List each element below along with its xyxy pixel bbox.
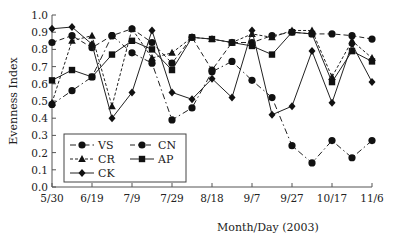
circle-marker-icon (228, 58, 235, 65)
x-tick-label: 6/19 (80, 192, 104, 204)
circle-marker-icon (308, 159, 315, 166)
circle-marker-icon (168, 116, 175, 123)
x-tick-label: 5/30 (40, 192, 64, 204)
x-tick-label: 9/7 (244, 192, 261, 204)
triangle-marker-icon (88, 32, 96, 39)
square-marker-icon (149, 46, 155, 52)
circle-marker-icon (148, 39, 155, 46)
diamond-marker-icon (269, 111, 276, 119)
legend-label: AP (157, 153, 174, 166)
square-marker-icon (249, 43, 255, 49)
x-axis-label: Month/Day (2003) (217, 221, 319, 234)
diamond-marker-icon (289, 102, 296, 110)
legend-label: VS (97, 139, 113, 152)
legend-label: CK (98, 167, 115, 180)
square-marker-icon (129, 38, 135, 44)
circle-marker-icon (128, 49, 135, 56)
x-tick-label: 10/17 (317, 192, 347, 204)
circle-marker-icon (208, 66, 215, 73)
circle-marker-icon (78, 141, 85, 148)
y-tick-label: 1.0 (31, 9, 48, 21)
legend: VSCNCRAPCK (64, 134, 186, 182)
square-marker-icon (269, 51, 275, 57)
circle-marker-icon (248, 77, 255, 84)
circle-marker-icon (328, 137, 335, 144)
diamond-marker-icon (49, 25, 56, 33)
square-marker-icon (189, 34, 195, 40)
circle-marker-icon (188, 104, 195, 111)
line-chart: 0.00.10.20.30.40.50.60.70.80.91.05/306/1… (0, 0, 395, 234)
y-tick-label: 0.5 (31, 95, 48, 107)
legend-label: CR (98, 153, 115, 166)
y-tick-label: 0.1 (31, 164, 48, 176)
x-tick-label: 7/29 (160, 192, 184, 204)
square-marker-icon (209, 36, 215, 42)
square-marker-icon (369, 58, 375, 64)
square-marker-icon (309, 31, 315, 37)
circle-marker-icon (268, 94, 275, 101)
diamond-marker-icon (149, 26, 156, 34)
square-marker-icon (109, 51, 115, 57)
circle-marker-icon (48, 39, 55, 46)
legend-label: CN (158, 139, 176, 152)
x-tick-label: 8/18 (200, 192, 224, 204)
circle-marker-icon (368, 35, 375, 42)
y-tick-label: 0.9 (31, 26, 48, 38)
diamond-marker-icon (309, 47, 316, 55)
square-marker-icon (229, 39, 235, 45)
y-tick-label: 0.3 (31, 129, 48, 141)
x-tick-label: 9/27 (280, 192, 304, 204)
circle-marker-icon (138, 141, 145, 148)
square-marker-icon (139, 156, 145, 162)
circle-marker-icon (288, 142, 295, 149)
y-tick-label: 0.6 (31, 78, 48, 90)
triangle-marker-icon (168, 49, 176, 56)
circle-marker-icon (328, 30, 335, 37)
square-marker-icon (69, 67, 75, 73)
square-marker-icon (49, 77, 55, 83)
square-marker-icon (169, 67, 175, 73)
y-tick-label: 0.4 (31, 112, 48, 124)
x-tick-label: 7/9 (124, 192, 141, 204)
circle-marker-icon (68, 87, 75, 94)
y-tick-label: 0.7 (31, 61, 48, 73)
x-tick-label: 11/6 (360, 192, 384, 204)
diamond-marker-icon (329, 99, 336, 107)
y-tick-label: 0.8 (31, 43, 48, 55)
diamond-marker-icon (369, 78, 376, 86)
square-marker-icon (289, 29, 295, 35)
circle-marker-icon (368, 137, 375, 144)
diamond-marker-icon (69, 23, 76, 31)
y-tick-label: 0.2 (31, 147, 48, 159)
circle-marker-icon (108, 32, 115, 39)
y-axis-label: Evenness Index (7, 57, 20, 145)
square-marker-icon (89, 74, 95, 80)
square-marker-icon (329, 79, 335, 85)
diamond-marker-icon (249, 26, 256, 34)
circle-marker-icon (348, 154, 355, 161)
diamond-marker-icon (169, 88, 176, 96)
